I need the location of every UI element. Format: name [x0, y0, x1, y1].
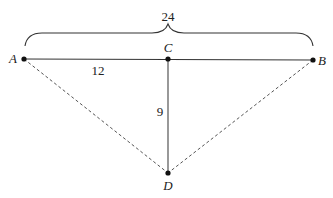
label-point-c: C: [164, 40, 173, 55]
point-d: [165, 170, 170, 175]
label-ab-length: 24: [162, 9, 176, 24]
label-cd-length: 9: [157, 104, 164, 119]
point-c: [165, 56, 170, 61]
point-a: [21, 56, 26, 61]
geometry-diagram: 24 A B C D 12 9: [0, 0, 333, 198]
label-point-d: D: [162, 178, 173, 193]
label-ac-length: 12: [92, 63, 105, 78]
label-point-b: B: [318, 53, 326, 68]
point-b: [310, 57, 315, 62]
segment-bd-dashed: [168, 60, 313, 173]
label-point-a: A: [8, 51, 17, 66]
